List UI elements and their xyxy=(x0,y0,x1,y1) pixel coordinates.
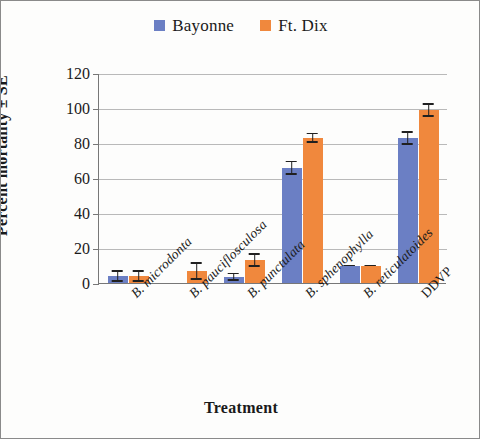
error-bar xyxy=(428,103,430,117)
y-axis-tick-label: 60 xyxy=(74,170,90,188)
bar xyxy=(303,138,323,283)
bar xyxy=(419,110,439,283)
x-axis-title: Treatment xyxy=(1,399,480,417)
chart-figure: Bayonne Ft. Dix Percent mortality ± SE 0… xyxy=(0,0,480,439)
legend-item-ft-dix: Ft. Dix xyxy=(260,17,328,34)
error-bar xyxy=(254,253,256,267)
y-axis-title: Percent mortality ± SE xyxy=(0,75,11,236)
bar-groups xyxy=(99,73,447,283)
bar-ft-dix[interactable] xyxy=(361,73,381,283)
y-axis-tick-label: 40 xyxy=(74,205,90,223)
y-axis-tick-label: 20 xyxy=(74,240,90,258)
bar-ft-dix[interactable] xyxy=(245,73,265,283)
y-axis-tick-label: 0 xyxy=(82,275,90,293)
legend-swatch-bayonne xyxy=(154,20,165,31)
legend-swatch-ft-dix xyxy=(260,20,271,31)
y-axis-tick-label: 100 xyxy=(66,100,90,118)
bar-ft-dix[interactable] xyxy=(129,73,149,283)
chart-legend: Bayonne Ft. Dix xyxy=(1,17,480,34)
y-axis-tick-label: 80 xyxy=(74,135,90,153)
bar-ft-dix[interactable] xyxy=(419,73,439,283)
error-bar xyxy=(196,262,198,280)
y-axis-tick-label: 120 xyxy=(66,65,90,83)
error-bar xyxy=(407,131,409,145)
error-bar xyxy=(291,161,293,175)
error-bar xyxy=(117,270,119,282)
bar-group xyxy=(99,73,157,283)
bar-bayonne[interactable] xyxy=(108,73,128,283)
plot-area: 020406080100120 xyxy=(98,74,446,284)
error-bar xyxy=(312,133,314,144)
legend-label-ft-dix: Ft. Dix xyxy=(278,17,328,34)
bar-ft-dix[interactable] xyxy=(187,73,207,283)
legend-label-bayonne: Bayonne xyxy=(172,17,234,34)
legend-item-bayonne: Bayonne xyxy=(154,17,234,34)
error-bar xyxy=(370,265,372,267)
bar-ft-dix[interactable] xyxy=(303,73,323,283)
y-axis-tick xyxy=(93,284,99,285)
error-bar xyxy=(233,273,235,282)
